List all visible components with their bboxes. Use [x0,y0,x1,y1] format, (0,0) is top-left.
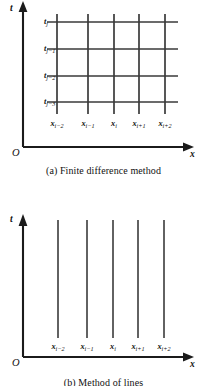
caption-panel-a: (a) Finite difference method [0,165,207,176]
t-tick-sub: j [46,20,48,27]
figure-page: t x O tj tj−1 tj−2 tj−3 xi−2 xi−1 xi xi+… [0,0,207,386]
panel-method-of-lines: t x O xi−2 xi−1 xi xi+1 xi+2 [0,185,207,386]
x-tick-label: xi [110,343,116,351]
t-axis-label: t [10,215,13,225]
x-axis-label: x [190,150,195,160]
x-axis-label: x [190,360,195,370]
t-tick-label: tj−1 [44,45,55,53]
x-tick-label: xi−2 [51,343,64,351]
t-axis-arrow-icon [19,214,28,226]
x-tick-sub: i+2 [162,345,171,352]
x-tick-label: xi−1 [81,120,94,128]
x-tick-sub: i [115,122,117,129]
t-tick-sub: j−3 [46,100,55,107]
t-axis-arrow-icon [19,1,28,12]
t-axis-label: t [10,4,13,14]
caption-panel-b: (b) Method of lines [0,377,207,386]
x-tick-label: xi+1 [131,343,144,351]
t-tick-label: tj−2 [44,72,55,80]
x-tick-sub: i+2 [163,122,172,129]
x-tick-label: xi+2 [158,120,171,128]
origin-label: O [12,358,20,369]
panel-finite-difference: t x O tj tj−1 tj−2 tj−3 xi−2 xi−1 xi xi+… [0,0,207,182]
x-tick-sub: i−2 [56,345,65,352]
x-tick-sub: i−1 [85,345,94,352]
t-tick-label: tj [44,18,48,26]
t-tick-sub: j−2 [46,74,55,81]
x-tick-sub: i−1 [86,122,95,129]
finite-difference-plot [0,0,207,182]
method-of-lines-plot [0,185,207,386]
x-tick-label: xi−2 [50,120,63,128]
x-tick-sub: i+1 [136,345,145,352]
x-tick-sub: i−2 [55,122,64,129]
x-tick-label: xi [111,120,117,128]
t-tick-label: tj−3 [44,98,55,106]
origin-label: O [12,148,20,159]
x-tick-sub: i+1 [137,122,146,129]
t-tick-sub: j−1 [46,47,55,54]
x-tick-sub: i [114,345,116,352]
x-tick-label: xi+2 [157,343,170,351]
x-tick-label: xi+1 [132,120,145,128]
x-tick-label: xi−1 [80,343,93,351]
